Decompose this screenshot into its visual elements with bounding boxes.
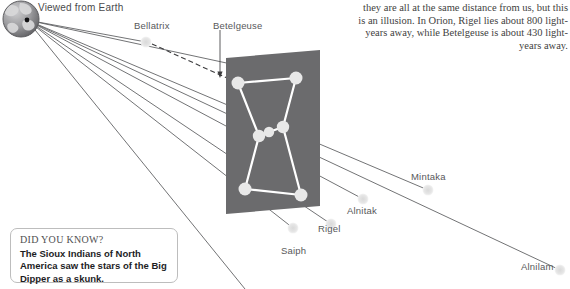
ghost-star-alnitak: [358, 194, 369, 205]
panel-star-alnitak: [277, 121, 289, 133]
star-label-rigel: Rigel: [318, 223, 341, 234]
sight-ray-bellatrix: [27, 20, 146, 42]
star-label-saiph: Saiph: [281, 245, 306, 256]
intro-paragraph: they are all at the same distance from u…: [356, 2, 568, 52]
orion-distance-diagram: Viewed from Earth Bellatrix Betelgeuse M…: [0, 0, 570, 289]
label-leader-lines: [217, 30, 222, 78]
viewed-from-earth-caption: Viewed from Earth: [38, 2, 123, 13]
panel-star-bellatrix: [232, 77, 245, 90]
ghost-star-mintaka: [423, 185, 434, 196]
leader-betelgeuse-arrow: [217, 72, 222, 79]
star-label-alnilam: Alnilam: [521, 261, 554, 272]
star-label-mintaka: Mintaka: [411, 171, 446, 182]
star-label-betelgeuse: Betelgeuse: [213, 20, 263, 31]
did-you-know-title: DID YOU KNOW?: [20, 234, 168, 245]
did-you-know-callout: DID YOU KNOW? The Sioux Indians of North…: [10, 228, 178, 283]
panel-star-saiph: [239, 183, 252, 196]
star-label-alnitak: Alnitak: [347, 205, 377, 216]
did-you-know-body: The Sioux Indians of North America saw t…: [20, 248, 168, 285]
ghost-star-alnilam: [555, 265, 566, 276]
ghost-star-saiph: [288, 223, 299, 234]
panel-star-rigel: [295, 189, 308, 202]
star-label-bellatrix: Bellatrix: [134, 20, 170, 31]
earth-globe-icon: [3, 1, 39, 37]
panel-star-mintaka: [253, 130, 265, 142]
ghost-stars: [141, 37, 566, 276]
panel-star-betelgeuse: [290, 72, 303, 85]
ghost-star-bellatrix: [141, 37, 152, 48]
panel-star-alnilam: [264, 127, 274, 137]
